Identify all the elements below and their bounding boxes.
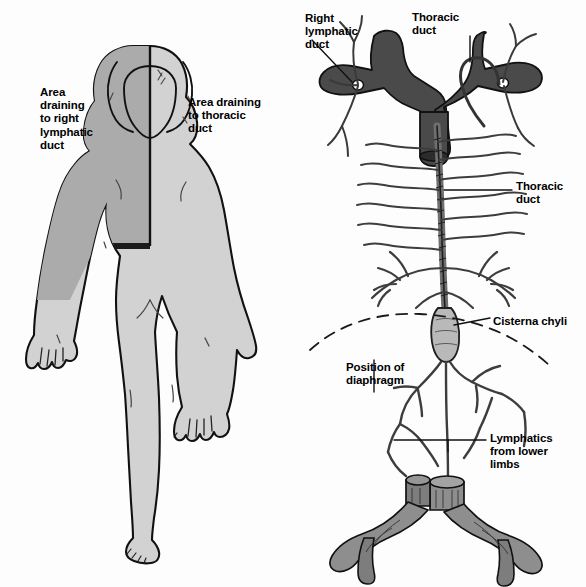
lower-lymphatic-vessels xyxy=(388,362,526,482)
lymphatic-drainage-figure: Area draining to right lymphatic duct Ar… xyxy=(0,0,586,587)
thoracic-duct-panel xyxy=(296,0,586,587)
body-drainage-panel xyxy=(0,0,300,587)
diaphragm-position-line xyxy=(310,314,550,366)
iliac-veins xyxy=(330,475,542,586)
